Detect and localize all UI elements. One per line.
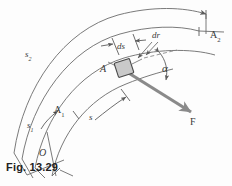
mechanics-diagram	[0, 0, 232, 186]
point-label-A1: A1	[54, 105, 65, 118]
differential-label-ds: ds	[117, 42, 125, 51]
arrow-s	[95, 89, 130, 120]
arc-inner	[52, 69, 173, 176]
outer-measurement-arc	[14, 9, 206, 154]
figure-13-29: s2 s1 s A A1 A2 ds dr α F O Fig. 13.29	[0, 0, 232, 186]
point-label-A: A	[100, 64, 106, 74]
point-label-A2: A2	[210, 30, 221, 43]
angle-label-alpha: α	[162, 63, 168, 74]
arc-label-s1: s1	[27, 121, 33, 133]
force-vector-F	[127, 72, 191, 112]
arc-label-s: s	[89, 113, 93, 122]
differential-label-dr: dr	[152, 31, 160, 40]
arc-label-s2: s2	[25, 50, 31, 62]
leader-dr	[138, 42, 158, 58]
force-label-F: F	[190, 117, 196, 127]
figure-caption: Fig. 13.29	[6, 161, 58, 173]
position-ticks	[73, 10, 224, 119]
origin-label-O: O	[39, 148, 46, 158]
